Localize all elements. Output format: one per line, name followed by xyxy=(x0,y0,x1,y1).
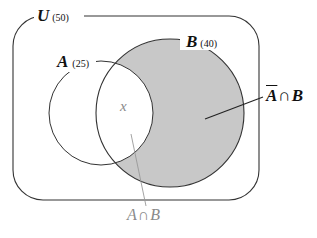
universe-letter: U xyxy=(37,6,49,25)
complement-label-b: B xyxy=(292,86,303,105)
set-b-letter: B xyxy=(186,32,197,51)
complement-label: A∩B xyxy=(266,86,303,106)
set-a-count: (25) xyxy=(72,58,89,69)
intersection-label-a: A xyxy=(127,206,137,223)
set-a-letter: A xyxy=(57,52,68,71)
complement-intersection-symbol: ∩ xyxy=(278,86,290,105)
intersection-label-b: B xyxy=(150,206,160,223)
intersection-label: A∩B xyxy=(127,206,160,224)
region-not-a-and-b xyxy=(0,0,317,238)
universe-count: (50) xyxy=(52,12,69,23)
universe-label: U(50) xyxy=(37,6,69,26)
venn-diagram xyxy=(0,0,317,238)
intersection-value: x xyxy=(120,98,127,115)
set-a-label: A(25) xyxy=(57,52,89,72)
set-b-count: (40) xyxy=(200,38,217,49)
intersection-symbol: ∩ xyxy=(138,206,150,223)
complement-label-a: A xyxy=(266,86,277,105)
set-b-label: B(40) xyxy=(186,32,217,52)
